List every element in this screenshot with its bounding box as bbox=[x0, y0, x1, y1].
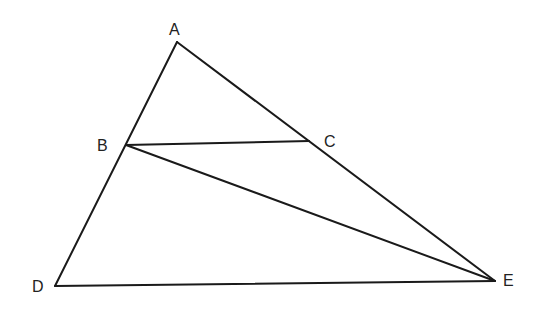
segment-AD bbox=[55, 42, 177, 286]
segment-BC bbox=[126, 141, 309, 145]
geometry-diagram: A B C D E bbox=[0, 0, 537, 317]
point-label-D: D bbox=[32, 278, 44, 295]
diagram-canvas: A B C D E bbox=[0, 0, 537, 317]
point-label-A: A bbox=[169, 21, 180, 38]
point-label-E: E bbox=[503, 272, 514, 289]
segment-DE bbox=[55, 281, 495, 286]
segment-AE bbox=[177, 42, 495, 281]
point-label-C: C bbox=[324, 133, 336, 150]
point-label-B: B bbox=[97, 137, 108, 154]
segment-BE bbox=[126, 145, 495, 281]
